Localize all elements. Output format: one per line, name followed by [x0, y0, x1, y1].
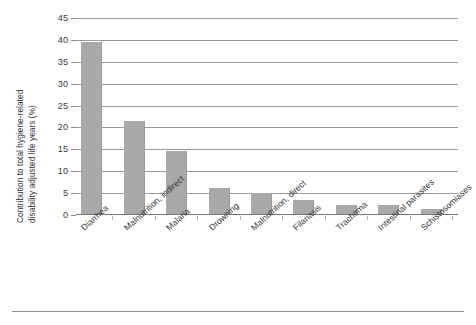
x-tick-mark — [240, 216, 241, 220]
x-tick-mark — [197, 216, 198, 220]
y-tick-label: 35 — [58, 57, 68, 67]
chart-figure: Contribution to total hygiene-related di… — [0, 0, 476, 325]
y-tick-label: 5 — [63, 188, 68, 198]
y-tick-label: 0 — [63, 210, 68, 220]
y-tick-label: 25 — [58, 101, 68, 111]
y-tick-label: 40 — [58, 35, 68, 45]
y-axis-title-line-2: disability adjusted life years (%) — [27, 105, 37, 223]
y-tick-label: 20 — [58, 122, 68, 132]
y-tick-mark — [71, 215, 76, 216]
y-tick-label: 10 — [58, 166, 68, 176]
y-tick-label: 45 — [58, 13, 68, 23]
y-axis-title-line-1: Contribution to total hygiene-related — [15, 90, 25, 223]
x-tick-mark — [367, 216, 368, 220]
x-tick-mark — [452, 216, 453, 220]
y-tick-mark — [71, 149, 76, 150]
x-tick-mark — [282, 216, 283, 220]
y-tick-label: 30 — [58, 79, 68, 89]
y-tick-mark — [71, 171, 76, 172]
y-gridline — [76, 62, 458, 63]
y-tick-mark — [71, 62, 76, 63]
y-tick-mark — [71, 127, 76, 128]
y-tick-mark — [71, 106, 76, 107]
y-tick-mark — [71, 18, 76, 19]
y-tick-label: 15 — [58, 144, 68, 154]
bar — [124, 121, 145, 214]
y-tick-mark — [71, 193, 76, 194]
bottom-rule — [12, 311, 464, 312]
y-axis-title: Contribution to total hygiene-related di… — [14, 18, 58, 223]
plot-area: 051015202530354045 — [76, 18, 458, 215]
bar — [81, 42, 102, 214]
y-gridline — [76, 18, 458, 19]
x-tick-mark — [410, 216, 411, 220]
x-tick-mark — [112, 216, 113, 220]
x-tick-mark — [155, 216, 156, 220]
y-tick-mark — [71, 84, 76, 85]
x-tick-mark — [325, 216, 326, 220]
y-gridline — [76, 84, 458, 85]
y-tick-mark — [71, 40, 76, 41]
y-gridline — [76, 40, 458, 41]
y-gridline — [76, 106, 458, 107]
